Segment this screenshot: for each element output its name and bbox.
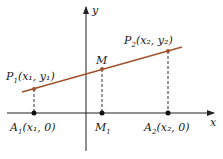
point-p2 [166, 49, 170, 53]
point-m [100, 67, 104, 71]
point-a1 [32, 111, 37, 116]
point-p1 [32, 87, 36, 91]
label-m1: M1 [94, 121, 111, 136]
midpoint-diagram: x y P1(x₁, y₁) M P2(x₂, y₂) A1(x₁, 0) M1… [0, 0, 223, 159]
label-p1: P1(x₁, y₁) [5, 70, 55, 85]
point-m1 [100, 111, 105, 116]
x-axis-label: x [210, 116, 217, 129]
y-axis-label: y [91, 4, 99, 17]
label-a1: A1(x₁, 0) [9, 121, 56, 136]
label-a2: A2(x₂, 0) [143, 121, 190, 136]
diagram-svg: x y P1(x₁, y₁) M P2(x₂, y₂) A1(x₁, 0) M1… [0, 0, 223, 159]
label-p2: P2(x₂, y₂) [123, 34, 173, 49]
point-a2 [166, 111, 171, 116]
label-m: M [95, 54, 108, 67]
